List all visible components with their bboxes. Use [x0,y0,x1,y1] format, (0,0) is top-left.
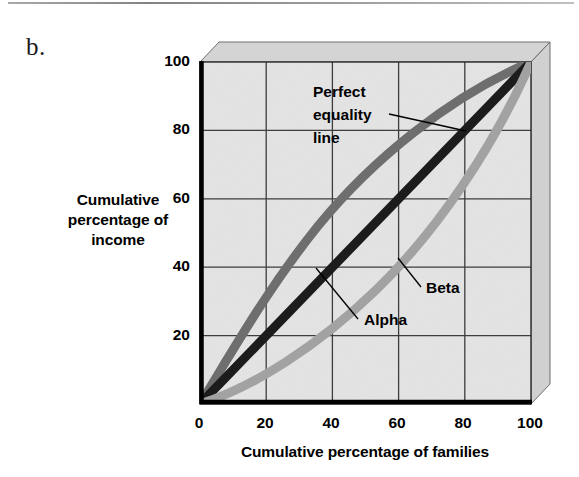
annotation-label-beta: Beta [426,279,460,296]
annotation-label-alpha: Alpha [364,311,407,328]
lorenz-curve-chart: Perfect equality line Alpha Beta [0,0,579,477]
annotation-label-perfect-equality-line-2: equality [313,106,372,123]
plot-bevel-right [531,42,550,404]
plot-bevel-top [200,42,550,62]
annotation-label-perfect-equality-line-1: Perfect [313,83,366,100]
annotation-label-perfect-equality-line-3: line [313,129,340,146]
